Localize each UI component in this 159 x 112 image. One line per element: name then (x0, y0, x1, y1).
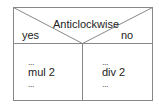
false-label: no (121, 30, 133, 41)
condition-label: Anticlockwise (53, 19, 119, 30)
false-branch-statement: div 2 (102, 67, 125, 78)
true-label: yes (22, 30, 39, 41)
true-branch-statement: mul 2 (28, 67, 55, 78)
decision-block-frame (0, 0, 159, 112)
false-branch-line-3: ... (102, 80, 108, 89)
true-branch-line-3: ... (28, 80, 34, 89)
